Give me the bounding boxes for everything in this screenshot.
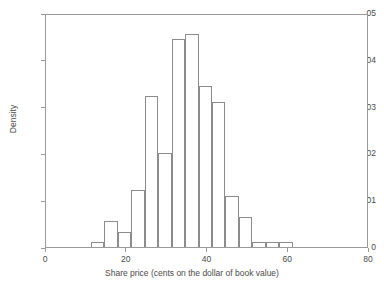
histogram-bar [145,96,159,247]
histogram-bar [131,190,144,247]
histogram-bar [118,232,131,247]
x-tick-mark [206,248,207,252]
histogram-bar [266,242,280,247]
histogram-bar [91,242,104,247]
y-axis-title: Density [8,89,18,149]
histogram-bar [185,34,199,247]
x-tick-label: 0 [30,254,60,264]
x-tick-label: 40 [192,254,222,264]
x-tick-mark [125,248,126,252]
plot-area [45,14,368,248]
x-tick-label: 20 [111,254,141,264]
histogram-bar [104,221,118,247]
x-axis-title: Share price (cents on the dollar of book… [0,268,384,279]
histogram-bar [199,86,212,247]
histogram-bar [158,153,171,247]
histogram-bars [46,15,367,247]
x-tick-label: 60 [272,254,302,264]
x-tick-mark [287,248,288,252]
y-axis: Density [0,0,45,289]
x-tick-label: 80 [353,254,383,264]
x-tick-mark [368,248,369,252]
histogram-bar [239,217,252,247]
histogram-figure: Density 0.01.02.03.04.05 020406080 Share… [0,0,384,289]
histogram-bar [225,196,239,247]
y-tick-label: 0 [371,243,376,252]
x-tick-mark [45,248,46,252]
histogram-bar [172,39,185,247]
histogram-bar [212,102,225,247]
histogram-bar [252,242,265,247]
histogram-bar [279,242,292,247]
